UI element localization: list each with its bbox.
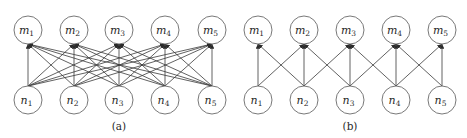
figure-canvas: m1m2m3m4m5n1n2n3n4n5 (a) m1m2m3m4m5n1n2n…: [0, 0, 467, 138]
node-a-m1: m1: [14, 16, 42, 44]
node-b-m4: m4: [382, 16, 410, 44]
node-a-m5: m5: [198, 16, 226, 44]
node-b-m1: m1: [244, 16, 272, 44]
caption-b: (b): [343, 120, 358, 132]
node-a-n4: n4: [151, 86, 179, 114]
neural-connectivity-figure: m1m2m3m4m5n1n2n3n4n5 (a) m1m2m3m4m5n1n2n…: [0, 0, 467, 138]
edges-a: [28, 44, 212, 86]
caption-a: (a): [112, 120, 126, 132]
diagram-a-fully-connected: m1m2m3m4m5n1n2n3n4n5 (a): [14, 16, 226, 132]
node-b-n2: n2: [290, 86, 318, 114]
node-a-n2: n2: [60, 86, 88, 114]
node-a-m4: m4: [151, 16, 179, 44]
edges-b: [258, 44, 442, 86]
node-a-m3: m3: [105, 16, 133, 44]
node-b-m5: m5: [428, 16, 456, 44]
diagram-b-locally-connected: m1m2m3m4m5n1n2n3n4n5 (b): [244, 16, 456, 132]
node-b-n3: n3: [336, 86, 364, 114]
node-a-n3: n3: [105, 86, 133, 114]
node-a-n5: n5: [198, 86, 226, 114]
node-b-n5: n5: [428, 86, 456, 114]
node-a-m2: m2: [60, 16, 88, 44]
node-b-n1: n1: [244, 86, 272, 114]
node-a-n1: n1: [14, 86, 42, 114]
node-b-n4: n4: [382, 86, 410, 114]
node-b-m3: m3: [336, 16, 364, 44]
node-b-m2: m2: [290, 16, 318, 44]
